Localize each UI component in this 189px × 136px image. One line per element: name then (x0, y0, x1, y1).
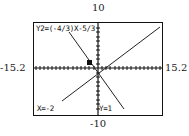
xmin-label: -15.2 (0, 63, 26, 73)
line-y1 (62, 27, 160, 101)
ymax-label: 10 (92, 3, 105, 13)
equation-label: Y2=(-4/3)X-5/3 (36, 25, 95, 33)
calculator-screen: Y2=(-4/3)X-5/3 X=-2 Y=1 (33, 22, 163, 116)
trace-y-readout: Y=1 (99, 105, 112, 113)
ymin-label: -10 (90, 119, 106, 129)
trace-cursor (87, 60, 92, 65)
graph-plot (34, 23, 162, 115)
xmax-label: 15.2 (165, 63, 187, 73)
line-y2 (69, 32, 124, 109)
trace-x-readout: X=-2 (37, 105, 54, 113)
